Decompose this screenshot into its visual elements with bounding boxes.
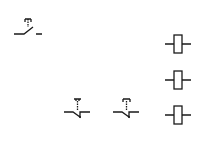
pushbutton-no-icon [14, 17, 44, 37]
pushbutton-nc-icon [64, 97, 94, 122]
pushbutton-nc-icon [113, 97, 143, 122]
coil-icon [165, 105, 193, 127]
coil-icon [165, 70, 193, 92]
coil-icon [165, 34, 193, 56]
